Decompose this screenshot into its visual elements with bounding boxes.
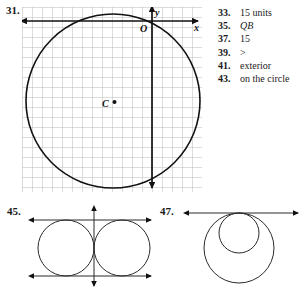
answer-number: 43.: [218, 72, 237, 85]
small-circle: [219, 213, 259, 253]
answer-row: 37. 15: [218, 32, 304, 45]
problem-number-31: 31.: [6, 5, 20, 16]
grid-background: [22, 7, 202, 192]
answer-text: 15: [237, 32, 250, 45]
answer-number: 37.: [218, 32, 237, 45]
answer-key-list: 33. 15 units 35. QB 37. 15 39. > 41. ext…: [218, 6, 304, 85]
answer-row: 35. QB: [218, 19, 304, 32]
problem-number-45: 45.: [7, 206, 21, 217]
answer-text: exterior: [237, 59, 271, 72]
right-circle: [94, 220, 150, 276]
answer-text: 15 units: [237, 6, 272, 19]
answer-number: 39.: [218, 46, 237, 59]
coordinate-plane-svg: [22, 7, 202, 192]
figure-47-internally-tangent-circles: [183, 204, 303, 288]
answer-text: QB: [237, 19, 253, 32]
origin-label: O: [140, 23, 147, 34]
answer-text: on the circle: [237, 72, 289, 85]
answer-row: 41. exterior: [218, 59, 304, 72]
large-circle: [204, 213, 274, 283]
worksheet-page: 31.: [0, 0, 305, 290]
x-axis-label: x: [194, 22, 199, 33]
left-circle: [38, 220, 94, 276]
center-label-c: C: [102, 98, 109, 109]
figure-31-coordinate-grid: y x O C: [22, 7, 202, 192]
answer-row: 43. on the circle: [218, 72, 304, 85]
figure-45-svg: [28, 204, 156, 288]
answer-number: 41.: [218, 59, 237, 72]
problem-number-47: 47.: [160, 206, 174, 217]
figure-45-tangent-circles: [28, 204, 156, 288]
answer-number: 33.: [218, 6, 237, 19]
answer-text: >: [237, 46, 246, 59]
answer-row: 39. >: [218, 46, 304, 59]
figure-47-svg: [183, 204, 303, 288]
center-point-dot: [113, 100, 117, 104]
answer-row: 33. 15 units: [218, 6, 304, 19]
y-axis-label: y: [155, 7, 159, 18]
answer-number: 35.: [218, 19, 237, 32]
